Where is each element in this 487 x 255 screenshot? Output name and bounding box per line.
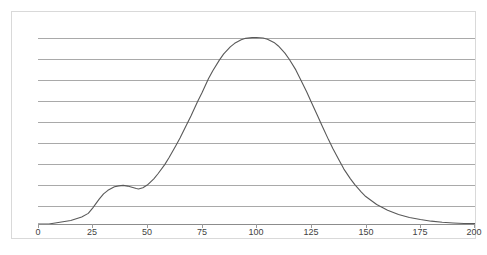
x-tick-label-100: 100 — [236, 227, 276, 238]
x-tick-label-75: 75 — [182, 227, 222, 238]
x-tick-label-175: 175 — [400, 227, 440, 238]
x-tick-label-0: 0 — [18, 227, 58, 238]
x-axis — [38, 27, 475, 229]
x-tick-label-25: 25 — [72, 227, 112, 238]
x-tick-label-200: 200 — [454, 227, 487, 238]
x-axis-labels: 0 25 50 75 100 125 150 175 200 — [38, 227, 475, 241]
plot-area — [38, 27, 475, 229]
x-tick-label-125: 125 — [291, 227, 331, 238]
x-tick-label-50: 50 — [127, 227, 167, 238]
chart-frame: 0 25 50 75 100 125 150 175 200 — [11, 11, 476, 239]
x-tick-label-150: 150 — [346, 227, 386, 238]
